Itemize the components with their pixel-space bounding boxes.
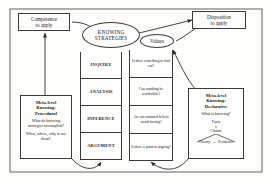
theory-evidence-dash: — xyxy=(212,140,216,145)
diagram-canvas: Competence to apply Disposition to apply… xyxy=(0,0,272,188)
competence-to-apply-box: Competence to apply xyxy=(18,13,70,31)
disposition-line2: to apply xyxy=(211,20,228,26)
meta-declarative-box: Meta-level Knowing: Declarative What is … xyxy=(188,88,244,159)
values-ellipse: Values xyxy=(140,34,174,48)
meta-declarative-question-1: What is knowing? xyxy=(197,112,234,117)
meta-procedural-box: Meta-level Knowing: Procedural What do k… xyxy=(20,95,72,159)
strategy-cell-inference: INFERENCE xyxy=(80,106,122,133)
knowing-strategies-line2: STRATEGIES xyxy=(95,35,128,41)
value-cell-analysis: Can anything be worthwhile? xyxy=(129,78,173,106)
value-cell-argument: Is there a point to arguing? xyxy=(129,134,173,161)
knowing-strategies-ellipse: KNOWING STRATEGIES xyxy=(82,22,140,48)
theory-label: Theory xyxy=(199,140,211,145)
evidence-label: Evidence xyxy=(218,140,233,145)
value-cell-inference: Are unexamined beliefs worth having? xyxy=(129,106,173,134)
meta-procedural-question-2: When, where, why to use them? xyxy=(21,132,71,142)
values-label: Values xyxy=(150,38,164,44)
strategy-label: ANALYSIS xyxy=(89,89,112,94)
strategy-label: INQUIRY xyxy=(91,62,112,67)
meta-procedural-question-1: What do knowing strategies accomplish? xyxy=(21,119,71,129)
strategy-cell-argument: ARGUMENT xyxy=(80,133,122,160)
value-text: Is there something to find out? xyxy=(131,59,171,68)
value-text: Are unexamined beliefs worth having? xyxy=(131,115,171,124)
strategy-label: ARGUMENT xyxy=(87,143,115,148)
value-cell-inquiry: Is there something to find out? xyxy=(129,50,173,78)
value-text: Can anything be worthwhile? xyxy=(131,87,171,96)
competence-line2: to apply xyxy=(36,22,53,28)
strategy-cell-inquiry: INQUIRY xyxy=(80,52,122,79)
meta-procedural-heading-line3: Procedural xyxy=(35,111,57,116)
strategy-cell-analysis: ANALYSIS xyxy=(80,79,122,106)
meta-declarative-heading-line3: Declarative xyxy=(205,104,227,109)
value-text: Is there a point to arguing? xyxy=(131,145,171,150)
disposition-to-apply-box: Disposition to apply xyxy=(192,11,246,29)
strategy-label: INFERENCE xyxy=(87,116,115,121)
